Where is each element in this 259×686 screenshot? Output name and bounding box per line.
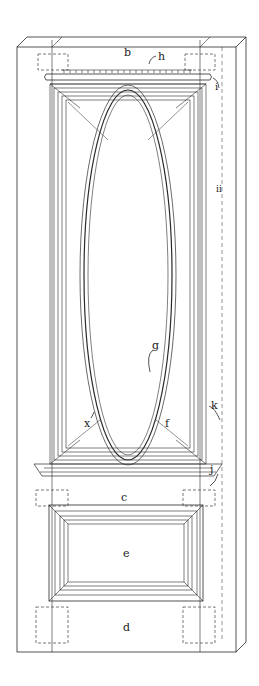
label-d: d [123, 622, 130, 633]
label-c: c [121, 492, 127, 503]
label-x: x [84, 418, 90, 429]
label-h: h [158, 51, 165, 62]
oval-guides [68, 102, 188, 446]
door-drawing [0, 0, 259, 686]
label-b: b [124, 47, 131, 58]
upper-frame [34, 84, 222, 476]
label-k: k [211, 400, 218, 411]
oval-glass [80, 85, 176, 465]
door-slab [17, 37, 246, 652]
label-g: g [152, 340, 159, 351]
label-i: i [215, 82, 218, 92]
label-e: e [123, 548, 130, 559]
cornice [45, 74, 212, 84]
label-ii: ii [216, 185, 222, 194]
label-j: j [210, 464, 213, 475]
dentil-strip [62, 70, 192, 73]
label-f: f [165, 418, 169, 429]
